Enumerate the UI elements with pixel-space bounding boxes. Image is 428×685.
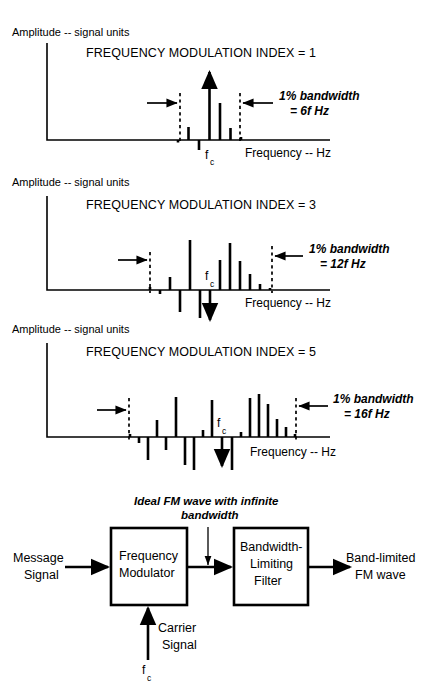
figure-canvas: Amplitude -- signal units FREQUENCY MODU… (0, 0, 428, 685)
panel3-carrier-subscript: c (222, 426, 227, 436)
frequency-modulator-label-line1: Frequency (119, 549, 179, 563)
message-signal-label-line1: Message (13, 551, 64, 565)
panel2-title: FREQUENCY MODULATION INDEX = 3 (86, 198, 316, 212)
ideal-fm-label-line1: Ideal FM wave with infinite (134, 495, 279, 507)
panel1-carrier-symbol: f (205, 148, 209, 162)
panel-index-1: Amplitude -- signal units FREQUENCY MODU… (12, 26, 360, 167)
panel3-bandwidth-label-line2: = 16f Hz (344, 407, 390, 421)
panel2-x-axis-label: Frequency -- Hz (245, 296, 331, 310)
fm-bandwidth-figure: Amplitude -- signal units FREQUENCY MODU… (0, 0, 428, 685)
ideal-fm-label-line2: bandwidth (181, 509, 239, 521)
block-diagram: Ideal FM wave with infinite bandwidth Fr… (13, 495, 416, 683)
panel2-bandwidth-label-line1: 1% bandwidth (309, 242, 390, 256)
panel1-y-axis-label: Amplitude -- signal units (12, 26, 130, 38)
message-signal-label-line2: Signal (24, 568, 59, 582)
panel1-x-axis-label: Frequency -- Hz (245, 146, 331, 160)
panel-index-3: Amplitude -- signal units FREQUENCY MODU… (12, 176, 390, 320)
carrier-label-line2: Signal (162, 638, 197, 652)
panel2-carrier-subscript: c (210, 279, 215, 289)
panel2-bandwidth-label-line2: = 12f Hz (320, 257, 366, 271)
panel3-bandwidth-label-line1: 1% bandwidth (333, 392, 414, 406)
panel-index-5: Amplitude -- signal units FREQUENCY MODU… (12, 323, 414, 470)
panel1-spectrum (178, 72, 241, 150)
panel1-bandwidth-label-line1: 1% bandwidth (279, 89, 360, 103)
block-carrier-subscript: c (147, 673, 152, 683)
panel3-carrier-symbol: f (217, 416, 221, 430)
panel3-title: FREQUENCY MODULATION INDEX = 5 (86, 345, 316, 359)
panel2-y-axis-label: Amplitude -- signal units (12, 176, 130, 188)
bandwidth-filter-label-line2: Limiting (250, 557, 293, 571)
panel2-carrier-symbol: f (205, 269, 209, 283)
output-label-line1: Band-limited (346, 551, 416, 565)
panel3-x-axis-label: Frequency -- Hz (250, 445, 336, 459)
panel1-bandwidth-label-line2: = 6f Hz (290, 104, 329, 118)
panel1-title: FREQUENCY MODULATION INDEX = 1 (86, 46, 316, 60)
bandwidth-filter-label-line1: Bandwidth- (240, 540, 303, 554)
output-label-line2: FM wave (355, 568, 406, 582)
bandwidth-filter-label-line3: Filter (254, 574, 282, 588)
block-carrier-symbol: f (142, 663, 146, 677)
panel3-y-axis-label: Amplitude -- signal units (12, 323, 130, 335)
panel1-carrier-subscript: c (210, 157, 215, 167)
carrier-label-line1: Carrier (158, 621, 196, 635)
frequency-modulator-label-line2: Modulator (119, 566, 175, 580)
